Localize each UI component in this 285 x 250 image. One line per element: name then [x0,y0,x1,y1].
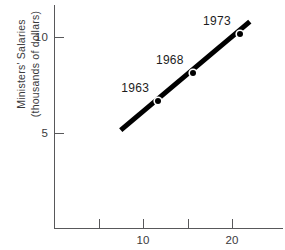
data-point-1963 [155,98,161,104]
trend-line [0,0,285,250]
data-point-1968 [190,70,196,76]
data-point-label-1968: 1968 [156,53,184,67]
data-point-1973 [237,31,243,37]
data-point-label-1963: 1963 [121,81,149,95]
plot-area: 196319681973 [0,0,285,250]
data-point-label-1973: 1973 [203,14,231,28]
trend-line-segment [121,22,250,130]
chart-figure: Ministers' Salaries (thousands of dollar… [0,0,285,250]
